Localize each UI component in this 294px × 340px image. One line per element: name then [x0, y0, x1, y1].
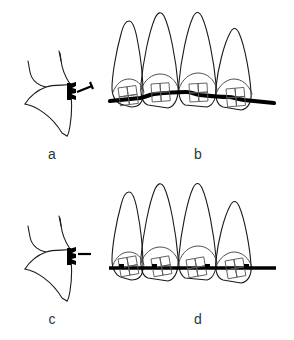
marker-dot-3-d	[205, 264, 210, 269]
bracket-a	[67, 82, 76, 100]
panel-c-tooth-diagram	[14, 213, 106, 305]
panel-label-c: c	[42, 311, 62, 327]
marker-dot-1-d	[119, 264, 124, 269]
panel-a-svg	[14, 48, 106, 140]
panel-c-svg	[14, 213, 106, 305]
panel-label-a: a	[42, 146, 62, 162]
tooth-3-d	[179, 184, 217, 281]
wire-stub-a	[77, 82, 93, 92]
bracket-c	[67, 247, 76, 265]
bracket-3-b	[189, 83, 208, 102]
tooth-4-d	[216, 202, 252, 284]
marker-dot-2-d	[152, 264, 157, 269]
marker-dot-4-d	[244, 264, 249, 269]
figure-container: a	[0, 0, 294, 340]
archwire-b	[110, 92, 274, 103]
tooth-outline-c	[25, 216, 72, 301]
tooth-outline-a	[25, 51, 72, 136]
panel-b-teeth-diagram	[106, 8, 292, 142]
panel-b-svg	[106, 8, 292, 142]
bracket-1-b	[118, 85, 138, 105]
panel-d-teeth-diagram	[106, 175, 292, 309]
panel-label-d: d	[188, 311, 208, 327]
panel-label-b: b	[188, 146, 208, 162]
panel-d-svg	[106, 175, 292, 309]
panel-a-tooth-diagram	[14, 48, 106, 140]
